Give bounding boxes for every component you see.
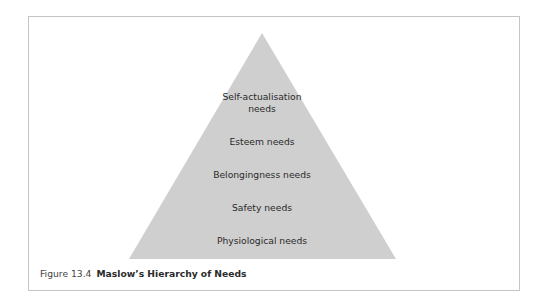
level-belongingness: Belongingness needs — [162, 169, 362, 181]
figure-title: Maslow’s Hierarchy of Needs — [96, 268, 246, 279]
level-esteem: Esteem needs — [162, 136, 362, 148]
figure-caption: Figure 13.4Maslow’s Hierarchy of Needs — [40, 268, 247, 279]
figure-number: Figure 13.4 — [40, 268, 91, 279]
pyramid-shape — [0, 0, 549, 306]
level-safety: Safety needs — [162, 202, 362, 214]
level-self-actualisation: Self-actualisation needs — [162, 91, 362, 115]
level-physiological: Physiological needs — [162, 235, 362, 247]
level-self-actualisation-line2: needs — [162, 103, 362, 115]
level-self-actualisation-line1: Self-actualisation — [162, 91, 362, 103]
